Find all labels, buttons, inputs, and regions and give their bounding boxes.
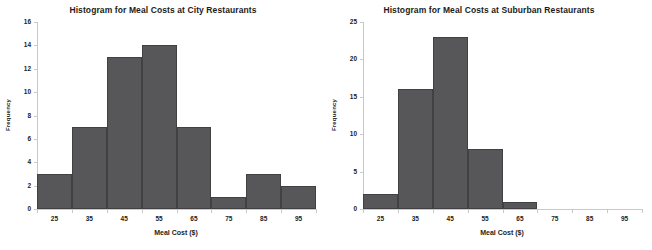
y-axis-tick-label: 25 [329,18,357,25]
chart-suburban-histogram: Histogram for Meal Costs at Suburban Res… [326,0,652,250]
y-axis-title: Frequency [5,95,11,135]
y-axis-tick-label: 14 [3,41,31,48]
y-axis-tick-label: 12 [3,65,31,72]
x-axis-title: Meal Cost ($) [362,229,642,236]
histogram-bar [281,186,316,209]
histogram-bar [363,194,398,209]
y-axis-tick [34,116,37,117]
x-axis-tick [398,210,399,213]
y-axis-tick [360,59,363,60]
x-axis-tick [211,210,212,213]
y-axis-tick [360,22,363,23]
histogram-bar [37,174,72,209]
x-axis-tick [433,210,434,213]
x-axis-tick-label: 75 [214,215,244,222]
y-axis-tick [34,92,37,93]
x-axis-tick [468,210,469,213]
x-axis-tick-label: 55 [470,215,500,222]
histogram-bar [433,37,468,209]
y-axis-tick [34,139,37,140]
x-axis-tick [642,210,643,213]
x-axis-tick-label: 85 [249,215,279,222]
y-axis-line [363,22,364,210]
plot-area: 02468101214162535455565758595 [0,0,326,250]
y-axis-tick-label: 2 [3,182,31,189]
x-axis-tick [316,210,317,213]
x-axis-tick [363,210,364,213]
x-axis-tick-label: 95 [610,215,640,222]
x-axis-tick [107,210,108,213]
x-axis-tick [503,210,504,213]
histogram-bar [246,174,281,209]
y-axis-tick [360,172,363,173]
y-axis-tick [34,45,37,46]
x-axis-tick [177,210,178,213]
x-axis-tick-label: 55 [144,215,174,222]
two-histogram-figure: Histogram for Meal Costs at City Restaur… [0,0,652,250]
chart-city-histogram: Histogram for Meal Costs at City Restaur… [0,0,326,250]
y-axis-tick-label: 0 [3,205,31,212]
x-axis-tick [246,210,247,213]
plot-area: 05101520252535455565758595 [326,0,652,250]
histogram-bar [107,57,142,209]
x-axis-tick-label: 45 [435,215,465,222]
x-axis-tick-label: 75 [540,215,570,222]
histogram-bar [142,45,177,209]
histogram-bar [468,149,503,209]
y-axis-tick-label: 0 [329,205,357,212]
x-axis-tick-label: 85 [575,215,605,222]
x-axis-tick-label: 65 [505,215,535,222]
x-axis-tick-label: 95 [284,215,314,222]
histogram-bar [72,127,107,209]
histogram-bar [503,202,538,209]
y-axis-tick-label: 20 [329,55,357,62]
y-axis-tick [360,97,363,98]
y-axis-tick [34,162,37,163]
x-axis-tick-label: 45 [109,215,139,222]
y-axis-title: Frequency [331,95,337,135]
y-axis-tick-label: 6 [3,135,31,142]
y-axis-tick [34,69,37,70]
x-axis-tick [72,210,73,213]
y-axis-tick-label: 16 [3,18,31,25]
x-axis-tick [537,210,538,213]
x-axis-tick [281,210,282,213]
x-axis-tick-label: 25 [365,215,395,222]
x-axis-tick-label: 25 [39,215,69,222]
y-axis-tick-label: 4 [3,158,31,165]
x-axis-tick [142,210,143,213]
y-axis-tick [360,134,363,135]
x-axis-title: Meal Cost ($) [36,229,316,236]
y-axis-tick-label: 5 [329,168,357,175]
histogram-bar [398,89,433,209]
x-axis-tick-label: 35 [74,215,104,222]
histogram-bar [211,197,246,209]
x-axis-tick [607,210,608,213]
y-axis-tick [34,22,37,23]
histogram-bar [177,127,212,209]
x-axis-tick [37,210,38,213]
x-axis-tick [572,210,573,213]
x-axis-tick-label: 35 [400,215,430,222]
x-axis-tick-label: 65 [179,215,209,222]
